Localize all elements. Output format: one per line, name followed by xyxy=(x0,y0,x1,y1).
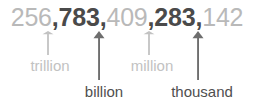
label-million: million xyxy=(131,58,174,74)
arrow-up-icon-billion xyxy=(93,31,106,80)
number-separator-1: , xyxy=(52,3,59,31)
arrow-up-icon-thousand xyxy=(192,31,205,80)
place-value-diagram: 256,783,409,283,142 trillion billion mil… xyxy=(0,0,254,106)
number-group-billions: 783 xyxy=(59,3,100,31)
arrow-up-icon-trillion xyxy=(42,31,55,55)
number-group-units: 142 xyxy=(202,3,243,31)
label-thousand: thousand xyxy=(171,84,233,100)
number-group-millions: 409 xyxy=(106,3,147,31)
number-display: 256,783,409,283,142 xyxy=(0,2,254,32)
label-billion: billion xyxy=(85,84,123,100)
number-group-trillions: 256 xyxy=(11,3,52,31)
label-trillion: trillion xyxy=(30,58,69,74)
number-group-thousands: 283 xyxy=(154,3,195,31)
arrow-up-icon-million xyxy=(143,31,156,55)
